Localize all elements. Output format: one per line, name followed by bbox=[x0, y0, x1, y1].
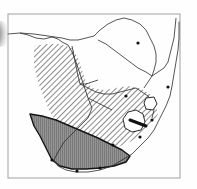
locality-gauteng-dot-icon bbox=[124, 94, 127, 97]
map-canvas bbox=[0, 0, 197, 189]
locality-coastal-north-dot-icon bbox=[166, 85, 169, 88]
locality-east-london-dot-icon bbox=[138, 135, 141, 138]
distribution-map-figure: Southern Africa species distribution map bbox=[0, 0, 197, 189]
locality-harare-dot-icon bbox=[136, 41, 139, 44]
locality-mossel-bay-dot-icon bbox=[75, 169, 78, 172]
locality-durban-dot-icon bbox=[150, 118, 153, 121]
locality-eastern-cape-dot-icon bbox=[111, 143, 114, 146]
locality-cape-south-dot-icon bbox=[98, 166, 101, 169]
locality-cape-west-dot-icon bbox=[50, 158, 53, 161]
